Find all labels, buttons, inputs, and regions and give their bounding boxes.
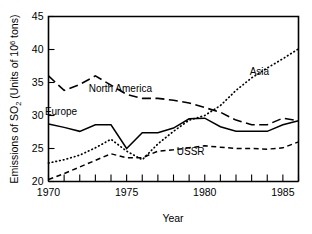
y-tick-label-35: 35 <box>32 76 44 88</box>
y-axis-title-suffix: tons) <box>8 15 20 41</box>
chart-axes <box>49 17 299 182</box>
so2-emissions-line-chart: 2025303540451970197519801985 North Ameri… <box>0 0 312 234</box>
x-tick-label-1985: 1985 <box>271 186 295 198</box>
y-tick-label-45: 45 <box>32 10 44 22</box>
y-axis-title-mid: (Units of 10 <box>8 45 20 102</box>
series-label-asia: Asia <box>250 66 270 77</box>
x-tick-label-1980: 1980 <box>193 186 217 198</box>
series-label-europe: Europe <box>45 106 78 117</box>
chart-tick-marks <box>49 17 299 182</box>
x-tick-label-1970: 1970 <box>37 186 61 198</box>
y-axis-title-prefix: Emissions of SO <box>8 106 20 184</box>
chart-figure: 2025303540451970197519801985 North Ameri… <box>0 0 312 234</box>
y-tick-label-30: 30 <box>32 109 44 121</box>
series-line-europe <box>49 118 299 148</box>
y-tick-label-25: 25 <box>32 142 44 154</box>
y-axis-title: Emissions of SO2 (Units of 106 tons) <box>8 15 23 184</box>
chart-series-labels: North AmericaEuropeUSSRAsia <box>45 66 270 158</box>
chart-tick-labels: 2025303540451970197519801985 <box>32 10 295 197</box>
x-tick-label-1975: 1975 <box>115 186 139 198</box>
plot-frame <box>49 17 299 182</box>
series-label-ussr: USSR <box>177 146 205 157</box>
series-line-north-america <box>49 76 299 125</box>
series-line-ussr <box>49 142 299 180</box>
x-axis-title: Year <box>162 212 184 224</box>
series-label-north-america: North America <box>89 83 153 94</box>
svg-text:Emissions of SO2 (Units of 106: Emissions of SO2 (Units of 106 tons) <box>8 15 23 184</box>
y-tick-label-40: 40 <box>32 43 44 55</box>
